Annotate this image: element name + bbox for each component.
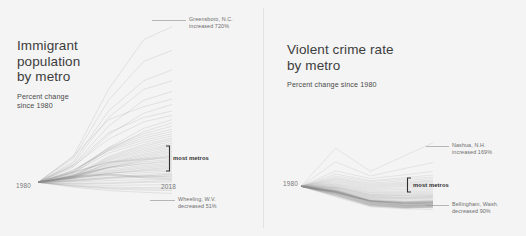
bracket-label-most-metros-immigrant: most metros (173, 155, 209, 161)
panel-violent-crime-rate: Violent crime rate by metro Percent chan… (263, 0, 526, 236)
annotation-nashua: Nashua, N.H. increased 169% (452, 142, 492, 155)
annotation-wheeling: Wheeling, W.V. decreased 51% (178, 196, 217, 209)
annotation-bellingham: Bellingham, Wash. decreased 90% (452, 201, 498, 214)
figure-container: Immigrant population by metro Percent ch… (0, 0, 526, 236)
annotation-greensboro: Greensboro, N.C. increased 720% (189, 16, 233, 29)
panel-immigrant-population: Immigrant population by metro Percent ch… (0, 0, 263, 236)
bracket-label-most-metros-crime: most metros (413, 182, 449, 188)
annotation-leaders-immigrant (0, 0, 263, 236)
